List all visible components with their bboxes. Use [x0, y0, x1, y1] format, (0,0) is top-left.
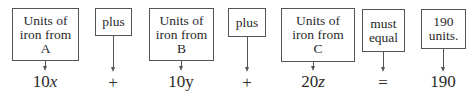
box-a-line-1: Units of [20, 14, 71, 28]
box-iron-from-a: Units of iron from A [12, 8, 79, 61]
term-a-coefficient: 10 [33, 72, 50, 91]
arrow-plus-1-head-icon [111, 67, 115, 72]
box-b-line-2: iron from [156, 28, 207, 42]
box-plus-1: plus [95, 8, 132, 36]
term-10x: 10x [15, 73, 75, 91]
arrow-equal-head-icon [381, 67, 385, 72]
box-must-equal: must equal [362, 9, 405, 52]
term-plus-1: + [83, 74, 143, 92]
arrow-c-head-icon [311, 66, 315, 71]
box-plus-2: plus [228, 8, 266, 37]
box-b-line-3: B [156, 42, 207, 56]
box-a-line-2: iron from [20, 28, 71, 42]
arrow-plus-2-shaft [247, 37, 248, 68]
term-20z: 20z [283, 73, 343, 91]
box-190-units: 190 units. [421, 9, 466, 49]
arrow-total-shaft [443, 49, 444, 68]
arrow-a-head-icon [43, 66, 47, 71]
arrow-equal-shaft [383, 52, 384, 68]
box-iron-from-c: Units of iron from C [281, 8, 355, 62]
box-iron-from-b: Units of iron from B [149, 8, 214, 61]
box-a-line-3: A [20, 42, 71, 56]
box-total-line-1: 190 [429, 15, 459, 29]
term-b-coefficient: 10 [168, 72, 185, 91]
box-plus-1-label: plus [102, 15, 125, 29]
term-b-variable: y [185, 72, 194, 91]
term-190: 190 [413, 73, 473, 91]
arrow-b-head-icon [179, 66, 183, 71]
box-equal-line-2: equal [369, 31, 398, 45]
box-equal-line-1: must [369, 17, 398, 31]
term-a-variable: x [50, 72, 58, 91]
term-c-coefficient: 20 [301, 72, 318, 91]
box-b-line-1: Units of [156, 14, 207, 28]
box-total-line-2: units. [429, 29, 459, 43]
term-plus-2: + [217, 74, 277, 92]
term-c-variable: z [318, 72, 325, 91]
term-10y: 10y [151, 73, 211, 91]
term-equals: = [353, 74, 413, 92]
box-c-line-1: Units of [292, 14, 343, 28]
box-c-line-3: C [292, 42, 343, 56]
box-plus-2-label: plus [236, 16, 259, 30]
box-c-line-2: iron from [292, 28, 343, 42]
arrow-plus-2-head-icon [245, 67, 249, 72]
arrow-plus-1-shaft [113, 36, 114, 68]
